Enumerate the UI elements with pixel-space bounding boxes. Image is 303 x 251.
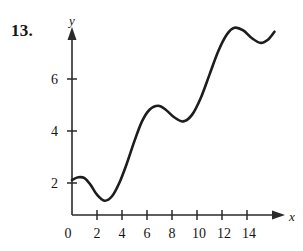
x-tick-label-4: 4 [119, 226, 126, 241]
y-axis [68, 27, 77, 215]
y-tick-label-6: 6 [51, 72, 58, 87]
x-tick-label-2: 2 [94, 226, 101, 241]
x-tick-label-10: 10 [192, 226, 206, 241]
x-tick-label-8: 8 [169, 226, 176, 241]
x-tick-label-12: 12 [217, 226, 231, 241]
x-axis-label: x [288, 209, 295, 224]
x-axis-arrowhead [272, 211, 285, 220]
figure-container: 13. 0 2 [0, 0, 303, 251]
x-tick-label-6: 6 [144, 226, 151, 241]
x-tick-label-14: 14 [242, 226, 256, 241]
y-axis-arrowhead [68, 27, 77, 40]
x-tick-label-0: 0 [65, 226, 72, 241]
y-tick-label-4: 4 [51, 124, 58, 139]
x-axis [72, 211, 285, 220]
y-axis-label: y [67, 13, 75, 28]
function-curve [72, 28, 275, 201]
graph-plot: 0 2 4 6 8 10 12 14 2 4 6 y x [0, 0, 303, 251]
x-axis-tick-labels: 0 2 4 6 8 10 12 14 [65, 226, 257, 241]
y-axis-tick-labels: 2 4 6 [51, 72, 58, 191]
y-tick-label-2: 2 [51, 176, 58, 191]
